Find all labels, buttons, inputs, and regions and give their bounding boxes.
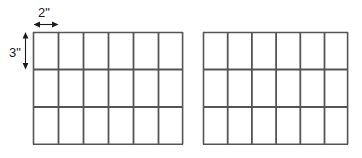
width-arrow-head-left xyxy=(34,22,41,28)
height-dimension-label: 3" xyxy=(9,46,21,59)
width-arrow-head-right xyxy=(52,22,59,28)
width-dimension-arrow xyxy=(34,22,59,28)
height-arrow-head-bottom xyxy=(23,63,29,70)
right-grid xyxy=(203,32,348,145)
figure-root: 2" 3" xyxy=(0,0,362,158)
grid-diagram-svg xyxy=(0,0,362,158)
width-dimension-label: 2" xyxy=(38,6,50,19)
height-arrow-head-top xyxy=(23,32,29,39)
left-grid xyxy=(33,32,183,145)
height-dimension-arrow xyxy=(23,32,29,70)
